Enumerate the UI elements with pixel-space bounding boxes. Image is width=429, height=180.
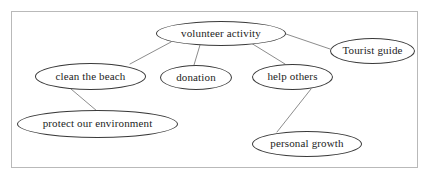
- node-tourist-guide[interactable]: Tourist guide: [330, 38, 415, 64]
- mindmap-canvas: volunteer activity Tourist guide clean t…: [0, 0, 429, 180]
- node-label-protect-our-environment: protect our environment: [43, 118, 153, 130]
- node-label-clean-the-beach: clean the beach: [55, 71, 125, 83]
- node-donation[interactable]: donation: [160, 65, 232, 90]
- node-protect-our-environment[interactable]: protect our environment: [17, 110, 178, 138]
- node-help-others[interactable]: help others: [252, 64, 333, 90]
- node-label-tourist-guide: Tourist guide: [342, 45, 402, 57]
- node-label-donation: donation: [176, 72, 216, 84]
- node-label-personal-growth: personal growth: [270, 138, 343, 150]
- node-personal-growth[interactable]: personal growth: [252, 131, 362, 157]
- node-label-help-others: help others: [267, 71, 317, 83]
- node-volunteer-activity[interactable]: volunteer activity: [156, 21, 286, 46]
- node-clean-the-beach[interactable]: clean the beach: [35, 63, 146, 90]
- node-label-volunteer-activity: volunteer activity: [181, 28, 261, 40]
